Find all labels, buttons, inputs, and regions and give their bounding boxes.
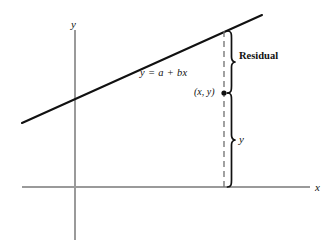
residual-label: Residual [239,51,278,62]
y-segment-brace [228,93,236,187]
x-axis-label: x [315,182,320,193]
regression-residual-diagram: y x y = a + bx (x, y) Residual y [0,0,332,246]
residual-brace [228,31,236,93]
diagram-canvas [0,0,332,246]
y-segment-label: y [239,134,244,145]
regression-equation-label: y = a + bx [140,68,188,79]
y-axis-label: y [71,19,76,30]
data-point-marker [221,90,226,95]
data-point-label: (x, y) [194,87,215,97]
